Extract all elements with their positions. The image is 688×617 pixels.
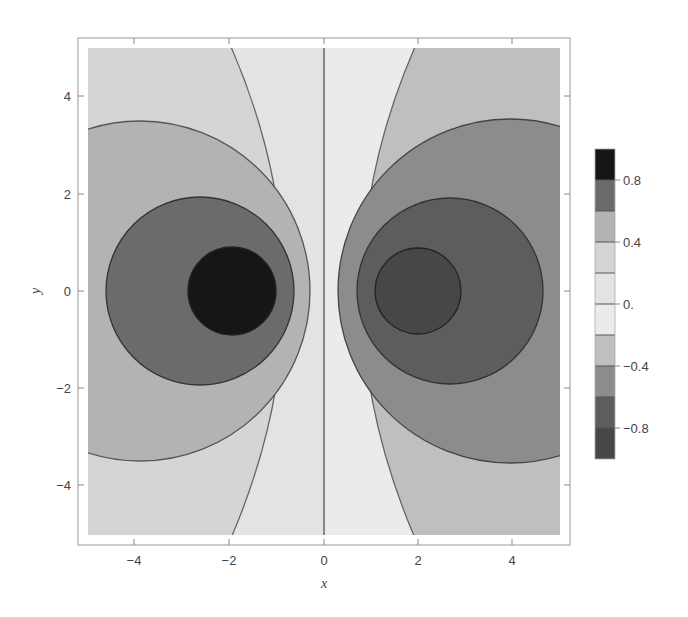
svg-text:4: 4 — [508, 553, 515, 568]
svg-text:−2: −2 — [56, 381, 71, 396]
colorbar-label: 0.4 — [623, 235, 641, 250]
y-tick-labels: 4 2 0 −2 −4 — [56, 89, 71, 493]
colorbar-label: −0.4 — [623, 359, 649, 374]
svg-text:−2: −2 — [222, 553, 237, 568]
svg-text:4: 4 — [64, 89, 71, 104]
svg-text:0: 0 — [64, 284, 71, 299]
colorbar: 0.8 0.4 0. −0.4 −0.8 — [595, 149, 649, 459]
svg-text:2: 2 — [414, 553, 421, 568]
contour-0.8 — [188, 247, 276, 335]
colorbar-label: 0. — [623, 297, 634, 312]
contour-plot: −4 −2 0 2 4 x 4 2 0 −2 −4 y — [0, 0, 688, 617]
svg-text:−4: −4 — [127, 553, 142, 568]
colorbar-label: −0.8 — [623, 421, 649, 436]
svg-text:2: 2 — [64, 187, 71, 202]
contour-regions — [0, 40, 682, 545]
x-axis-label: x — [320, 576, 328, 591]
svg-text:0: 0 — [320, 553, 327, 568]
x-tick-labels: −4 −2 0 2 4 — [127, 553, 516, 568]
y-axis-label: y — [28, 287, 43, 296]
colorbar-label: 0.8 — [623, 173, 641, 188]
contour-neg0.8 — [375, 248, 461, 334]
svg-text:−4: −4 — [56, 478, 71, 493]
